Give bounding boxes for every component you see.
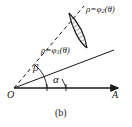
hatched-region: [69, 13, 87, 48]
label-angle-beta: β: [33, 62, 38, 73]
label-outer-curve: ρ=φ2(θ): [86, 5, 115, 14]
label-angle-alpha: α: [53, 74, 59, 85]
angle-arc-alpha: [62, 79, 66, 88]
label-point-a: A: [112, 90, 118, 100]
polar-region-figure: ρ=φ2(θ) ρ=φ1(θ) β α O A (b): [0, 0, 132, 127]
label-origin-o: O: [7, 90, 14, 100]
figure-caption: (b): [55, 108, 67, 118]
label-inner-curve: ρ=φ1(θ): [41, 46, 70, 55]
